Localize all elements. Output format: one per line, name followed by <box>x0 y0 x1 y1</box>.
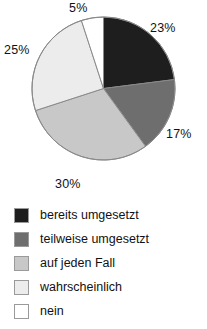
legend-item-label: wahrscheinlich <box>40 281 122 294</box>
pie-label-wahrscheinlich: 25% <box>4 44 30 57</box>
legend-item-label: bereits umgesetzt <box>40 209 139 222</box>
legend-swatch-icon <box>14 280 29 295</box>
pie-label-teilweise-umgesetzt: 17% <box>166 128 192 141</box>
legend-item-bereits-umgesetzt: bereits umgesetzt <box>14 203 207 227</box>
legend-swatch-icon <box>14 304 29 319</box>
legend-item-label: teilweise umgesetzt <box>40 233 149 246</box>
legend-item-label: nein <box>40 305 64 318</box>
pie-label-auf-jeden-fall: 30% <box>55 178 81 191</box>
legend-item-label: auf jeden Fall <box>40 257 115 270</box>
pie-label-nein: 5% <box>69 2 87 15</box>
pie-slice-group <box>32 17 175 160</box>
pie-chart: 23% 17% 30% 25% 5% <box>0 0 207 200</box>
pie-graphic <box>31 16 176 161</box>
legend-item-nein: nein <box>14 299 207 323</box>
legend-swatch-icon <box>14 208 29 223</box>
pie-label-bereits-umgesetzt: 23% <box>150 22 176 35</box>
legend-item-teilweise-umgesetzt: teilweise umgesetzt <box>14 227 207 251</box>
legend-item-auf-jeden-fall: auf jeden Fall <box>14 251 207 275</box>
chart-legend: bereits umgesetzt teilweise umgesetzt au… <box>0 203 207 323</box>
pie-svg <box>31 16 176 161</box>
legend-swatch-icon <box>14 232 29 247</box>
legend-item-wahrscheinlich: wahrscheinlich <box>14 275 207 299</box>
legend-swatch-icon <box>14 256 29 271</box>
